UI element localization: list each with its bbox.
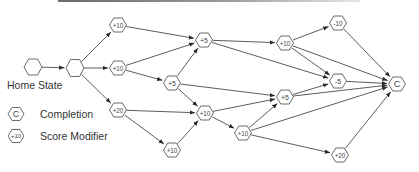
score-modifier-node: +10 xyxy=(164,143,181,157)
edge-b1-to-d2 xyxy=(212,43,328,79)
completion-node: C xyxy=(389,77,406,91)
score-modifier-node: +10 xyxy=(197,106,214,120)
edge-d3-to-end xyxy=(345,92,390,149)
edge-d1-to-end xyxy=(344,29,390,77)
node-label: +10 xyxy=(280,40,291,47)
edge-b3-to-c2 xyxy=(213,99,275,111)
legend-score-modifier-label: Score Modifier xyxy=(40,131,108,142)
node-label: +10 xyxy=(113,65,124,72)
node-label: +10 xyxy=(167,147,178,154)
score-modifier-node: +10 xyxy=(277,36,294,50)
legend: C +10 xyxy=(8,108,24,143)
score-modifier-node: -5 xyxy=(330,74,347,88)
node-label: +10 xyxy=(113,22,124,29)
node-label: +20 xyxy=(335,152,346,159)
edge-b3-to-c3 xyxy=(213,117,235,128)
edge-b2-to-b3 xyxy=(178,89,197,107)
hexagon-icon xyxy=(24,59,42,75)
edge-a1-to-b1 xyxy=(126,27,194,39)
node-label: +20 xyxy=(113,107,124,114)
home-state-label: Home State xyxy=(7,80,62,91)
edge-c1-to-d1 xyxy=(293,27,329,41)
score-modifier-node: +10 xyxy=(110,18,127,32)
legend-completion-icon: C xyxy=(8,108,24,121)
edge-b1-to-c1 xyxy=(213,40,276,42)
state-flow-diagram: +10+10+20+5+5+10+10+10+5+10-10-5+20C C +… xyxy=(0,0,419,172)
score-modifier-node: +20 xyxy=(110,103,127,117)
node-label: +5 xyxy=(281,94,289,101)
edge-d2-to-end xyxy=(347,81,388,83)
node-label: -10 xyxy=(333,20,343,27)
node-label: +10 xyxy=(200,110,211,117)
score-modifier-node: +5 xyxy=(196,33,213,47)
edge-c3-to-d3 xyxy=(251,135,330,153)
edge-home-to-hub xyxy=(42,67,65,68)
hub-node xyxy=(66,60,84,77)
score-modifier-node: +10 xyxy=(235,126,252,140)
edge-b4-to-b3 xyxy=(178,121,199,144)
score-modifier-node: +10 xyxy=(110,61,127,75)
node-label: +5 xyxy=(200,37,208,44)
edge-a2-to-b1 xyxy=(126,43,194,65)
svg-text:+10: +10 xyxy=(11,133,22,139)
score-modifier-node: +5 xyxy=(164,76,181,90)
legend-completion-label: Completion xyxy=(40,109,93,120)
edge-a3-to-b4 xyxy=(125,115,164,144)
svg-text:C: C xyxy=(13,109,20,119)
edge-hub-to-a3 xyxy=(81,74,110,103)
node-label: C xyxy=(394,79,401,89)
edge-b2-to-b1 xyxy=(177,48,198,76)
home-state-node xyxy=(24,59,42,75)
hexagon-icon xyxy=(66,60,84,77)
edge-b2-to-c2 xyxy=(180,84,275,96)
score-modifier-node: +5 xyxy=(277,90,294,104)
node-label: -5 xyxy=(335,78,341,85)
score-modifier-node: +20 xyxy=(332,148,349,162)
node-label: +5 xyxy=(168,80,176,87)
edge-c3-to-c2 xyxy=(250,104,278,128)
node-label: +10 xyxy=(238,130,249,137)
legend-score-modifier-icon: +10 xyxy=(8,130,24,143)
score-modifier-node: -10 xyxy=(330,16,347,30)
edge-hub-to-a1 xyxy=(81,32,111,62)
edge-a3-to-b3 xyxy=(127,110,196,112)
edge-a2-to-b2 xyxy=(126,70,162,80)
